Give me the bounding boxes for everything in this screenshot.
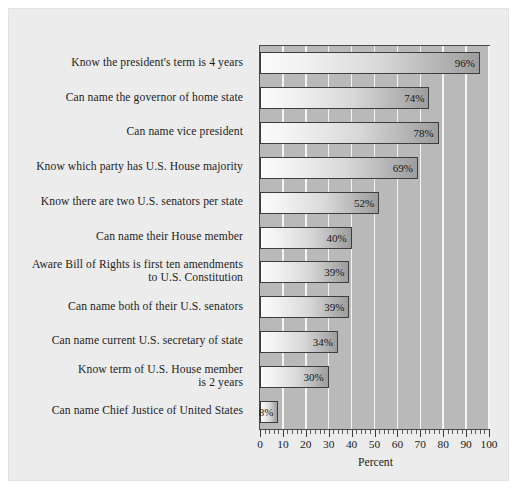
bar-row: 96% bbox=[260, 52, 489, 74]
x-tick-minor bbox=[265, 430, 266, 434]
x-tick-major bbox=[329, 430, 330, 437]
bar-row: 78% bbox=[260, 122, 489, 144]
x-tick-minor bbox=[269, 430, 270, 434]
x-tick-minor bbox=[356, 430, 357, 434]
x-tick-minor bbox=[370, 430, 371, 434]
x-tick-minor bbox=[338, 430, 339, 434]
category-axis-labels: Know the president's term is 4 yearsCan … bbox=[9, 45, 251, 430]
x-tick-minor bbox=[475, 430, 476, 434]
bar[interactable]: 39% bbox=[260, 261, 349, 283]
bar[interactable]: 52% bbox=[260, 192, 379, 214]
x-tick-minor bbox=[388, 430, 389, 434]
x-tick-label: 30 bbox=[323, 438, 334, 450]
x-tick-label: 100 bbox=[480, 438, 497, 450]
x-tick-major bbox=[260, 430, 261, 437]
x-tick-major bbox=[283, 430, 284, 437]
x-tick-label: 80 bbox=[437, 438, 448, 450]
x-tick-minor bbox=[361, 430, 362, 434]
x-tick-minor bbox=[384, 430, 385, 434]
bar[interactable]: 39% bbox=[260, 296, 349, 318]
bar-value-label: 34% bbox=[313, 336, 337, 348]
bar-value-label: 30% bbox=[304, 371, 328, 383]
category-label-line: Can name their House member bbox=[96, 230, 243, 243]
bar-value-label: 39% bbox=[324, 266, 348, 278]
category-label: Know which party has U.S. House majority bbox=[9, 149, 251, 184]
x-tick-label: 0 bbox=[257, 438, 263, 450]
bar[interactable]: 69% bbox=[260, 157, 418, 179]
x-tick-major bbox=[466, 430, 467, 437]
x-tick-major bbox=[443, 430, 444, 437]
x-tick-minor bbox=[320, 430, 321, 434]
bar-value-label: 74% bbox=[404, 92, 428, 104]
x-tick-minor bbox=[365, 430, 366, 434]
x-tick-minor bbox=[462, 430, 463, 434]
category-label: Can name Chief Justice of United States bbox=[9, 393, 251, 428]
category-label: Can name current U.S. secretary of state bbox=[9, 324, 251, 359]
bar-value-label: 52% bbox=[354, 197, 378, 209]
x-axis: Percent 0102030405060708090100 bbox=[259, 430, 492, 476]
x-tick-minor bbox=[287, 430, 288, 434]
x-tick-minor bbox=[393, 430, 394, 434]
bar-row: 69% bbox=[260, 157, 489, 179]
x-tick-minor bbox=[292, 430, 293, 434]
x-axis-title: Percent bbox=[259, 456, 492, 469]
category-label: Can name their House member bbox=[9, 219, 251, 254]
bar-row: 39% bbox=[260, 261, 489, 283]
bar-row: 40% bbox=[260, 227, 489, 249]
x-tick-major bbox=[397, 430, 398, 437]
x-tick-major bbox=[375, 430, 376, 437]
x-tick-major bbox=[352, 430, 353, 437]
x-tick-minor bbox=[342, 430, 343, 434]
x-tick-label: 10 bbox=[277, 438, 288, 450]
bar-row: 52% bbox=[260, 192, 489, 214]
plot-area: 96%74%78%69%52%40%39%39%34%30%8% bbox=[259, 45, 490, 430]
bar[interactable]: 30% bbox=[260, 366, 329, 388]
x-tick-minor bbox=[301, 430, 302, 434]
x-tick-minor bbox=[297, 430, 298, 434]
x-tick-major bbox=[420, 430, 421, 437]
x-tick-minor bbox=[439, 430, 440, 434]
bar-row: 30% bbox=[260, 366, 489, 388]
bar[interactable]: 74% bbox=[260, 87, 429, 109]
x-tick-label: 70 bbox=[415, 438, 426, 450]
category-label: Can name both of their U.S. senators bbox=[9, 289, 251, 324]
x-tick-major bbox=[306, 430, 307, 437]
category-label: Aware Bill of Rights is first ten amendm… bbox=[9, 254, 251, 289]
category-label: Know term of U.S. House memberis 2 years bbox=[9, 358, 251, 393]
x-tick-minor bbox=[278, 430, 279, 434]
bar[interactable]: 40% bbox=[260, 227, 352, 249]
chart-figure: Know the president's term is 4 yearsCan … bbox=[8, 8, 509, 481]
bar[interactable]: 34% bbox=[260, 331, 338, 353]
x-tick-minor bbox=[379, 430, 380, 434]
x-tick-minor bbox=[310, 430, 311, 434]
bar-row: 39% bbox=[260, 296, 489, 318]
category-label: Know there are two U.S. senators per sta… bbox=[9, 184, 251, 219]
bar-row: 74% bbox=[260, 87, 489, 109]
bar-value-label: 40% bbox=[326, 232, 350, 244]
bar[interactable]: 96% bbox=[260, 52, 480, 74]
x-tick-minor bbox=[429, 430, 430, 434]
category-label-line: Know term of U.S. House member bbox=[78, 363, 243, 376]
category-label-line: Can name current U.S. secretary of state bbox=[52, 334, 243, 347]
bar-value-label: 69% bbox=[393, 162, 417, 174]
category-label-line: Can name the governor of home state bbox=[66, 91, 243, 104]
x-tick-minor bbox=[434, 430, 435, 434]
x-tick-minor bbox=[425, 430, 426, 434]
x-tick-minor bbox=[315, 430, 316, 434]
x-tick-label: 40 bbox=[346, 438, 357, 450]
bar-value-label: 8% bbox=[259, 406, 278, 418]
category-label-line: Aware Bill of Rights is first ten amendm… bbox=[32, 258, 243, 271]
bar[interactable]: 8% bbox=[260, 401, 278, 423]
x-tick-minor bbox=[457, 430, 458, 434]
bar-value-label: 39% bbox=[324, 301, 348, 313]
category-label-line: Know which party has U.S. House majority bbox=[36, 160, 243, 173]
x-tick-minor bbox=[407, 430, 408, 434]
category-label: Can name the governor of home state bbox=[9, 80, 251, 115]
x-tick-minor bbox=[411, 430, 412, 434]
category-label: Can name vice president bbox=[9, 115, 251, 150]
x-tick-minor bbox=[274, 430, 275, 434]
bar[interactable]: 78% bbox=[260, 122, 439, 144]
bar-value-label: 78% bbox=[413, 127, 437, 139]
category-label-line: Know there are two U.S. senators per sta… bbox=[41, 195, 243, 208]
x-tick-minor bbox=[471, 430, 472, 434]
